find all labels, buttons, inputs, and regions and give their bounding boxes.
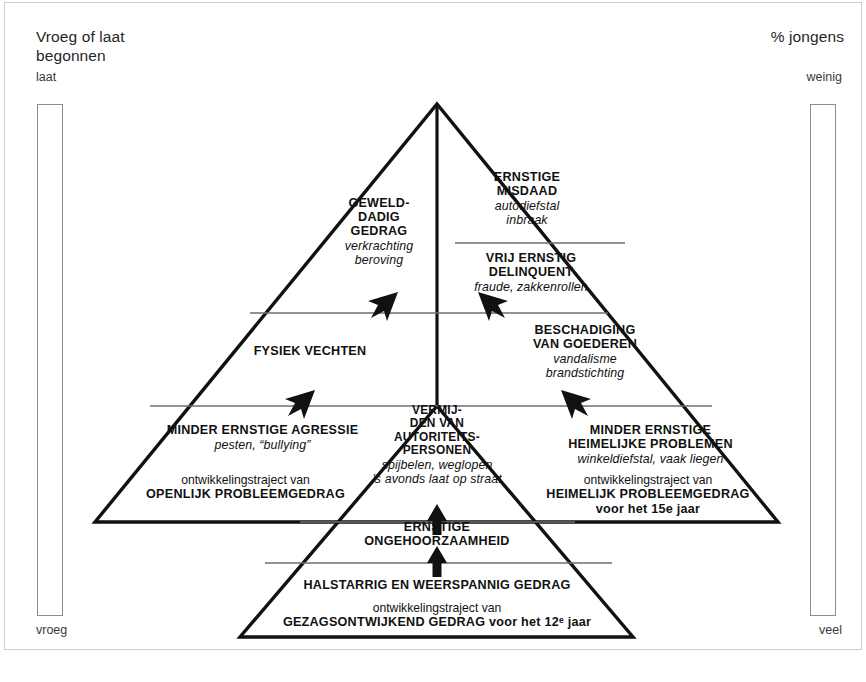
pathway-authority: ontwikkelingstraject van GEZAGSONTWIJKEN… — [253, 601, 621, 630]
level-covert-property-heading: BESCHADIGING VAN GOEDEREN — [497, 323, 673, 351]
level-covert-severe-heading: ERNSTIGE MISDAAD — [443, 170, 611, 198]
level-covert-fairly-severe-examples: fraude, zakkenrollen — [443, 281, 619, 295]
level-covert-severe-examples: autodiefstal inbraak — [443, 200, 611, 228]
level-authority-avoidance: VERMIJ- DEN VAN AUTORITEITS- PERSONEN sp… — [347, 404, 527, 487]
level-authority-stubborn-heading: HALSTARRIG EN WEERSPANNIG GEDRAG — [297, 578, 577, 592]
level-covert-minor-heading: MINDER ERNSTIGE HEIMELIJKE PROBLEMEN — [543, 423, 758, 451]
figure-root: Vroeg of laat begonnen laat vroeg % jong… — [0, 0, 866, 682]
level-covert-minor: MINDER ERNSTIGE HEIMELIJKE PROBLEMEN win… — [543, 423, 758, 467]
level-covert-severe: ERNSTIGE MISDAAD autodiefstal inbraak — [443, 170, 611, 228]
level-overt-fighting-heading: FYSIEK VECHTEN — [215, 344, 405, 358]
level-covert-fairly-severe: VRIJ ERNSTIG DELINQUENT fraude, zakkenro… — [443, 251, 619, 295]
level-authority-avoidance-heading: VERMIJ- DEN VAN AUTORITEITS- PERSONEN — [347, 404, 527, 457]
arrow-authority-lower-icon — [427, 546, 447, 577]
pathway-authority-name: GEZAGSONTWIJKEND GEDRAG voor het 12ᵉ jaa… — [253, 615, 621, 630]
arrow-covert-lower-icon — [561, 390, 591, 419]
pathway-covert-name: HEIMELIJK PROBLEEMGEDRAG — [528, 487, 768, 502]
arrow-overt-lower-icon — [285, 390, 315, 419]
pathway-overt-name: OPENLIJK PROBLEEMGEDRAG — [128, 487, 363, 502]
level-overt-severe-heading: GEWELD- DADIG GEDRAG — [320, 196, 438, 238]
pathway-covert-age: voor het 15e jaar — [528, 502, 768, 517]
pathway-covert: ontwikkelingstraject van HEIMELIJK PROBL… — [528, 473, 768, 517]
level-covert-fairly-severe-heading: VRIJ ERNSTIG DELINQUENT — [443, 251, 619, 279]
level-overt-minor-heading: MINDER ERNSTIGE AGRESSIE — [150, 423, 375, 437]
level-overt-severe-examples: verkrachting beroving — [320, 240, 438, 268]
level-covert-property-examples: vandalisme brandstichting — [497, 353, 673, 381]
level-authority-disobedience: ERNSTIGE ONGEHOORZAAMHEID — [337, 520, 537, 548]
arrow-covert-upper-icon — [478, 292, 508, 321]
level-overt-severe: GEWELD- DADIG GEDRAG verkrachting berovi… — [320, 196, 438, 268]
level-authority-avoidance-examples: spijbelen, weglopen ’s avonds laat op st… — [347, 459, 527, 487]
pathway-overt: ontwikkelingstraject van OPENLIJK PROBLE… — [128, 473, 363, 502]
pathway-overt-lead: ontwikkelingstraject van — [128, 473, 363, 487]
level-overt-fighting: FYSIEK VECHTEN — [215, 344, 405, 358]
level-authority-stubborn: HALSTARRIG EN WEERSPANNIG GEDRAG — [297, 578, 577, 592]
pathway-authority-lead: ontwikkelingstraject van — [253, 601, 621, 615]
level-authority-disobedience-heading: ERNSTIGE ONGEHOORZAAMHEID — [337, 520, 537, 548]
level-overt-minor-examples: pesten, “bullying” — [150, 439, 375, 453]
pathway-covert-lead: ontwikkelingstraject van — [528, 473, 768, 487]
level-overt-minor: MINDER ERNSTIGE AGRESSIE pesten, “bullyi… — [150, 423, 375, 453]
arrow-overt-upper-icon — [368, 292, 398, 321]
level-covert-property: BESCHADIGING VAN GOEDEREN vandalisme bra… — [497, 323, 673, 381]
level-covert-minor-examples: winkeldiefstal, vaak liegen — [543, 453, 758, 467]
